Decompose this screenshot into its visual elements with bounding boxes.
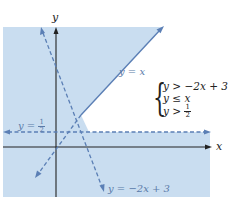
label-y-equals-x: y = x	[119, 67, 145, 77]
inequality-1: y > −2x + 3	[163, 80, 228, 92]
label-y-equals-half: y = 12	[18, 119, 45, 134]
fraction: 12	[38, 119, 44, 134]
label-text: y =	[18, 120, 35, 131]
inequality-2: y ≤ x	[163, 92, 228, 104]
inequality-3: y > 12	[163, 104, 228, 119]
fraction: 12	[184, 104, 190, 119]
x-axis-label: x	[216, 141, 222, 152]
inequality-system: y > −2x + 3 y ≤ x y > 12	[163, 80, 228, 119]
label-y-equals-neg2x-plus-3: y = −2x + 3	[108, 184, 170, 194]
y-axis-label: y	[52, 12, 58, 23]
